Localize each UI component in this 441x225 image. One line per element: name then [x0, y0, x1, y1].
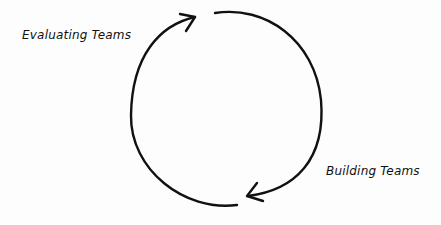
cycle-diagram: Evaluating Teams Building Teams [0, 0, 441, 225]
arrowhead-bottom-icon [247, 183, 263, 201]
arc-evaluating-to-building [131, 17, 237, 206]
arrowhead-top-icon [180, 14, 195, 31]
label-evaluating-teams: Evaluating Teams [22, 28, 131, 42]
label-building-teams: Building Teams [326, 164, 420, 178]
arc-building-to-evaluating [215, 12, 322, 196]
